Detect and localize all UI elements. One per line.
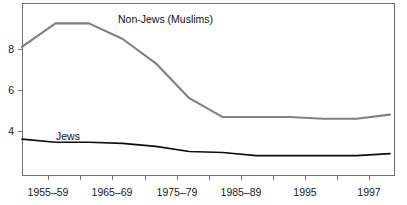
x-axis-ticks xyxy=(48,176,369,181)
y-axis-labels: 8 6 4 xyxy=(8,43,14,137)
x-axis-labels: 1955–59 1965–69 1975–79 1985–89 1995 199… xyxy=(28,186,381,198)
x-tick-label-1975-79: 1975–79 xyxy=(157,186,198,198)
y-axis-ticks xyxy=(18,49,23,131)
chart-container: 8 6 4 1955–59 1965–69 1975–79 1985–89 19… xyxy=(0,0,407,205)
y-tick-label-8: 8 xyxy=(8,43,14,55)
series-annotation-non-jews: Non-Jews (Muslims) xyxy=(118,13,213,25)
x-tick-label-1985-89: 1985–89 xyxy=(221,186,262,198)
line-chart: 8 6 4 1955–59 1965–69 1975–79 1985–89 19… xyxy=(0,0,407,205)
series-annotation-jews: Jews xyxy=(56,130,80,142)
x-tick-label-1965-69: 1965–69 xyxy=(92,186,133,198)
y-tick-label-4: 4 xyxy=(8,125,14,137)
series-line-non-jews-muslims xyxy=(22,23,390,118)
y-tick-label-6: 6 xyxy=(8,84,14,96)
x-tick-label-1955-59: 1955–59 xyxy=(28,186,69,198)
x-tick-label-1995: 1995 xyxy=(293,186,317,198)
x-tick-label-1997: 1997 xyxy=(357,186,381,198)
plot-frame xyxy=(23,4,395,176)
